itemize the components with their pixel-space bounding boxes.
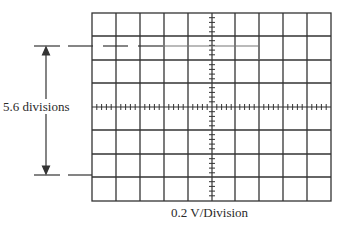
divisions-label: 5.6 divisions <box>3 100 70 113</box>
scale-label: 0.2 V/Division <box>171 206 248 219</box>
arrow-down-icon <box>43 166 50 174</box>
arrow-up-icon <box>43 47 50 55</box>
oscilloscope-diagram <box>0 0 342 228</box>
